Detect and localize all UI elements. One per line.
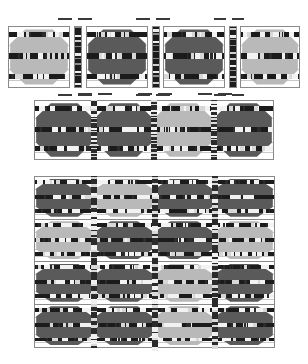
top-row-panel[interactable] [240, 26, 300, 88]
band-speckle [190, 53, 191, 59]
band-speckle [157, 106, 162, 111]
top-row-panel[interactable] [86, 26, 148, 88]
top-row-panel[interactable] [8, 26, 70, 88]
cell-band-middle [155, 195, 214, 199]
grid-cell[interactable] [35, 101, 95, 159]
band-speckle [266, 338, 269, 342]
band-speckle [269, 53, 272, 59]
gutter-segment [152, 292, 158, 296]
tab-mark-above [232, 18, 244, 20]
band-speckle [47, 53, 51, 59]
band-speckle [159, 195, 162, 199]
band-speckle [167, 252, 169, 256]
band-speckle [140, 308, 146, 312]
top-row-panel[interactable] [163, 26, 225, 88]
cell-band-bottom [95, 252, 154, 256]
band-speckle [117, 308, 120, 312]
band-speckle [85, 265, 91, 269]
band-speckle [105, 294, 109, 298]
band-speckle [145, 223, 151, 227]
gutter-segment [212, 205, 218, 208]
grid-cell[interactable] [155, 305, 215, 348]
band-speckle [217, 74, 221, 79]
grid-cell[interactable] [35, 262, 95, 305]
gutter-segment [151, 135, 157, 137]
band-speckle [143, 294, 147, 298]
band-speckle [158, 338, 163, 342]
band-speckle [78, 223, 80, 227]
gutter-segment [91, 318, 97, 321]
band-speckle [177, 127, 180, 133]
cell-band-bottom [95, 338, 154, 342]
band-speckle [170, 127, 175, 133]
band-speckle [221, 195, 223, 199]
band-speckle [244, 280, 247, 284]
band-speckle [137, 106, 140, 111]
cell-band-bottom [214, 146, 274, 151]
band-speckle [251, 74, 253, 79]
band-speckle [68, 323, 71, 327]
gutter-segment [91, 245, 97, 249]
grid-cell[interactable] [155, 262, 215, 305]
band-speckle [255, 238, 261, 242]
grid-cell[interactable] [95, 305, 155, 348]
band-speckle [132, 53, 136, 59]
band-speckle [238, 180, 239, 184]
grid-cell[interactable] [214, 101, 274, 159]
band-speckle [79, 180, 82, 184]
grid-cell[interactable] [95, 262, 155, 305]
band-speckle [266, 223, 268, 227]
grid-cell[interactable] [155, 177, 215, 220]
top-row-separator-strip[interactable] [152, 26, 160, 88]
cell-band-middle [95, 238, 154, 242]
gutter-segment [212, 285, 218, 288]
band-speckle [181, 127, 183, 133]
cell-band-bottom [155, 252, 214, 256]
band-speckle [250, 280, 257, 284]
strip-segment [230, 45, 236, 46]
grid-cell[interactable] [155, 220, 215, 263]
top-row-separator-strip[interactable] [229, 26, 237, 88]
grid-cell[interactable] [35, 220, 95, 263]
band-speckle [267, 74, 269, 79]
band-speckle [186, 323, 189, 327]
band-speckle [245, 209, 247, 213]
band-speckle [106, 323, 108, 327]
band-speckle [98, 294, 102, 298]
cell-band-middle [214, 238, 274, 242]
grid-cell[interactable] [214, 305, 274, 348]
grid-cell[interactable] [35, 177, 95, 220]
grid-cell[interactable] [154, 101, 214, 159]
cell-band-top [214, 106, 274, 111]
band-speckle [66, 223, 72, 227]
gutter-segment [211, 136, 217, 138]
gutter-segment [152, 211, 158, 214]
cell-band-middle [164, 53, 224, 59]
grid-cell[interactable] [95, 177, 155, 220]
gutter-segment [151, 100, 157, 101]
band-speckle [184, 265, 190, 269]
cell-band-bottom [95, 294, 154, 298]
band-speckle [264, 252, 268, 256]
grid-cell[interactable] [214, 177, 274, 220]
band-speckle [145, 195, 150, 199]
gutter-segment [211, 115, 217, 117]
band-speckle [223, 265, 225, 269]
band-speckle [179, 238, 180, 242]
tab-mark-above [78, 18, 92, 20]
band-speckle [164, 294, 168, 298]
grid-cell[interactable] [95, 220, 155, 263]
band-speckle [53, 180, 54, 184]
gutter-segment [212, 270, 218, 272]
grid-column-gutter [91, 176, 97, 348]
grid-column-gutter [151, 100, 157, 160]
band-speckle [263, 308, 267, 312]
grid-cell[interactable] [214, 220, 274, 263]
grid-cell[interactable] [35, 305, 95, 348]
grid-cell[interactable] [95, 101, 155, 159]
band-speckle [39, 308, 43, 312]
band-speckle [121, 280, 127, 284]
top-row-separator-strip[interactable] [74, 26, 82, 88]
band-speckle [216, 53, 222, 59]
grid-cell[interactable] [214, 262, 274, 305]
